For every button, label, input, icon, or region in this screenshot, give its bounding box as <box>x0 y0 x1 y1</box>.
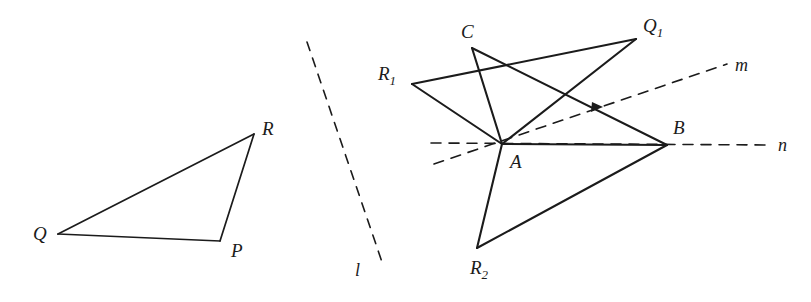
vertex-label-q1: Q1 <box>643 16 663 39</box>
vertex-label-r2-subscript: 2 <box>482 267 489 282</box>
ray-m <box>434 64 727 164</box>
vertex-label-a: A <box>510 152 522 171</box>
edge-r1-q1 <box>412 39 636 84</box>
vertex-label-r: R <box>262 119 274 138</box>
edge-c-a <box>472 48 502 144</box>
edge-a-q1 <box>502 39 636 144</box>
vertex-label-q: Q <box>33 224 47 243</box>
vertex-label-r1-subscript: 1 <box>390 73 397 88</box>
vertex-label-r2: R2 <box>470 258 488 281</box>
ray-label-n: n <box>778 136 787 154</box>
vertex-label-q1-base: Q <box>643 15 657 36</box>
edge-r1-a <box>412 84 502 144</box>
vertex-label-r1-base: R <box>378 63 390 84</box>
edge-a-b <box>502 144 667 145</box>
vertex-label-q1-subscript: 1 <box>657 25 664 40</box>
vertex-label-b: B <box>673 118 685 137</box>
edge-r-p <box>220 134 254 241</box>
edge-q-r <box>58 134 254 234</box>
edge-r2-b <box>477 145 667 248</box>
edge-c-b <box>472 48 667 145</box>
edge-p-q <box>58 234 220 241</box>
line-l <box>307 42 383 265</box>
vertex-label-p: P <box>231 241 243 260</box>
vertex-label-c: C <box>461 22 474 41</box>
edge-a-r2 <box>477 144 502 248</box>
vertex-label-r1: R1 <box>378 64 396 87</box>
mirror-line-l <box>307 42 383 265</box>
ray-label-m: m <box>735 56 748 74</box>
geometry-figure: Q P R l A B C Q1 R1 R2 m n <box>0 0 811 302</box>
geometry-canvas <box>0 0 811 302</box>
triangle-pqr <box>58 134 254 241</box>
vertex-label-r2-base: R <box>470 257 482 278</box>
line-label-l: l <box>355 261 360 279</box>
